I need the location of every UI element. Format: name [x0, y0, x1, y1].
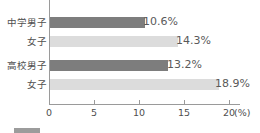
x-tick-10 [139, 100, 140, 105]
category-label-0: 中学男子 [1, 17, 47, 28]
bar-1 [50, 36, 178, 47]
bar-3 [50, 79, 219, 90]
legend [0, 127, 260, 133]
x-tick-label-10: 10 [133, 107, 145, 118]
bar-value-0: 10.6% [143, 16, 178, 28]
x-tick-5 [94, 100, 95, 105]
category-label-2: 高校男子 [1, 60, 47, 71]
bar-value-1: 14.3% [176, 35, 211, 47]
x-axis-line [49, 104, 240, 105]
x-axis-unit-label: (%) [234, 107, 250, 118]
bar-value-3: 18.9% [215, 78, 250, 90]
x-tick-label-15: 15 [178, 107, 190, 118]
bar-value-2: 13.2% [167, 59, 202, 71]
x-tick-15 [184, 100, 185, 105]
category-label-3: 女子 [1, 79, 47, 90]
bar-0 [50, 17, 145, 28]
bar-2 [50, 60, 168, 71]
x-tick-0 [49, 100, 50, 105]
x-tick-label-0: 0 [46, 107, 52, 118]
x-tick-20 [229, 100, 230, 105]
x-tick-label-5: 5 [91, 107, 97, 118]
legend-swatch-icon [14, 128, 40, 133]
horizontal-bar-chart: 中学男子 女子 高校男子 女子 0 5 10 15 20 (%) 10.6% 1… [0, 0, 260, 133]
category-label-1: 女子 [1, 36, 47, 47]
